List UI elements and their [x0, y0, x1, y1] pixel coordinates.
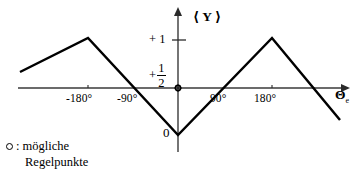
- legend-word-moegliche: mögliche: [23, 139, 70, 153]
- plus-half-numerator: 1: [157, 62, 165, 75]
- legend: : mögliche Regelpunkte: [6, 139, 88, 170]
- y-value-label-plus-one: + 1: [149, 33, 166, 46]
- x-tick-label-pos180: 180°: [254, 93, 276, 105]
- x-tick-label-neg180: -180°: [66, 93, 92, 105]
- y-axis-caption: ⟨ Y ⟩: [193, 10, 221, 24]
- x-tick-label-pos90: 90°: [210, 93, 226, 105]
- plus-half-sign: +: [149, 69, 156, 82]
- open-circle-icon: [6, 143, 13, 150]
- legend-text: : mögliche Regelpunkte: [16, 139, 88, 170]
- x-tick-label-neg90: -90°: [117, 93, 137, 105]
- triangle-wave-figure: ⟨ Y ⟩ Θe + 1 + 1 2 0 -180° -90° 90° 180°…: [0, 0, 362, 175]
- x-axis-caption-symbol: Θ: [335, 87, 346, 102]
- legend-line-1: : mögliche: [16, 139, 88, 155]
- x-axis: [18, 84, 350, 92]
- legend-line-2: Regelpunkte: [16, 155, 88, 171]
- x-axis-caption: Θe: [335, 88, 349, 105]
- plus-half-denominator: 2: [157, 77, 165, 90]
- y-value-label-zero: 0: [163, 126, 170, 139]
- control-point-marker: [175, 85, 182, 92]
- y-value-label-plus-half: + 1 2: [149, 62, 166, 89]
- legend-separator: :: [16, 139, 19, 153]
- y-axis-arrow-icon: [174, 7, 182, 16]
- plus-half-fraction: 1 2: [157, 62, 165, 89]
- x-axis-caption-subscript: e: [346, 96, 350, 105]
